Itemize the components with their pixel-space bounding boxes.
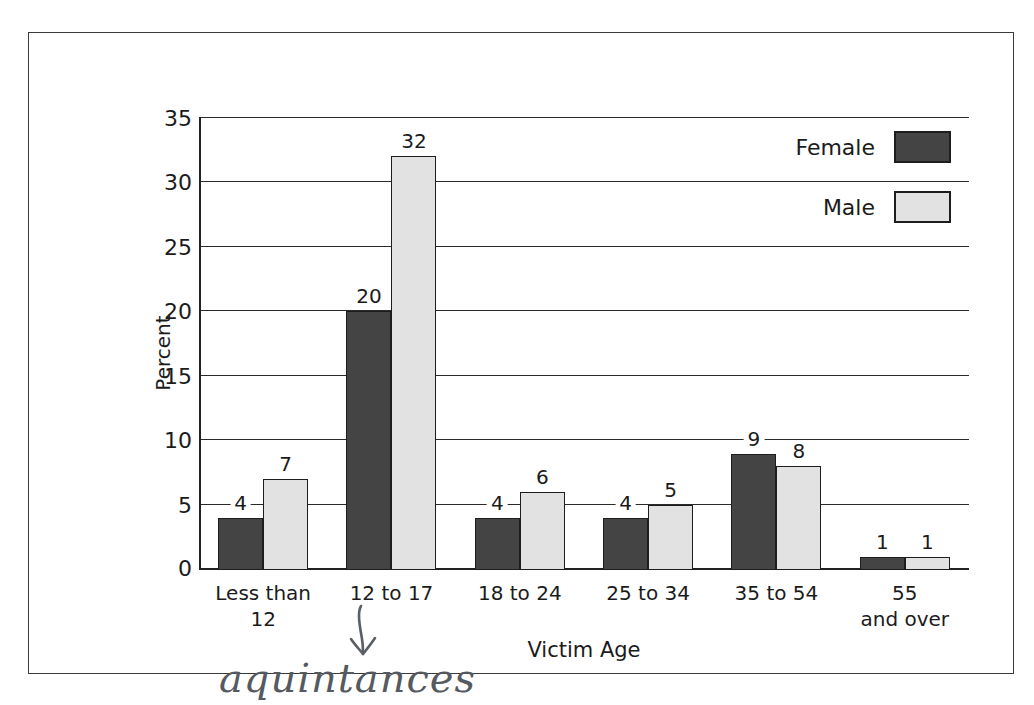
legend-label-female: Female [792,135,878,160]
x-category-label: 25 to 34 [606,580,690,606]
legend-swatch-female [894,131,951,163]
legend-item-male[interactable]: Male [782,177,969,237]
ytick-label-35: 35 [164,106,192,131]
ytick-label-15: 15 [164,363,192,388]
legend-label-male: Male [820,195,878,220]
gridline-10: 10 [201,439,969,440]
page-frame: Percent 35 30 25 20 15 10 5 [28,32,1014,674]
gridline-15: 15 [201,375,969,376]
x-category-label: 18 to 24 [478,580,562,606]
ytick-label-20: 20 [164,299,192,324]
x-category-label: Less than12 [215,580,311,633]
ytick-label-5: 5 [178,492,192,517]
x-category-label: 12 to 17 [350,580,434,606]
ytick-label-0: 0 [178,556,192,581]
gridline-25: 25 [201,246,969,247]
bar-chart: Percent 35 30 25 20 15 10 5 [29,33,1013,673]
x-axis-title: Victim Age [199,638,969,662]
legend-swatch-male [894,191,951,223]
x-category-label: 55and over [861,580,950,633]
gridline-5: 5 [201,504,969,505]
ytick-label-30: 30 [164,170,192,195]
ytick-label-10: 10 [164,428,192,453]
chart-legend: Female Male [782,117,969,237]
ytick-label-25: 25 [164,234,192,259]
x-category-label: 35 to 54 [735,580,819,606]
gridline-20: 20 [201,310,969,311]
legend-item-female[interactable]: Female [782,117,969,177]
